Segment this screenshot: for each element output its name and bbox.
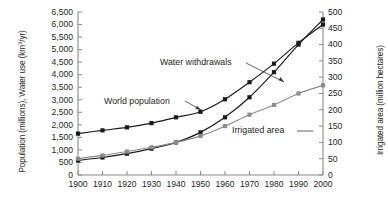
right-tick-label: 100 (328, 138, 342, 147)
left-tick-label: 5,500 (51, 33, 73, 42)
right-tick-label: 150 (328, 122, 342, 131)
data-point-marker (198, 134, 202, 138)
right-axis-ticks (319, 12, 323, 175)
data-point-marker (321, 83, 325, 87)
right-tick-label: 300 (328, 73, 342, 82)
data-point-marker (223, 124, 227, 128)
data-point-marker (100, 153, 104, 157)
series-layer (76, 17, 325, 162)
data-point-marker (247, 80, 251, 84)
right-tick-label: 350 (328, 57, 342, 66)
data-point-marker (296, 91, 300, 95)
left-axis-ticks (78, 12, 82, 175)
left-tick-label: 6,500 (51, 8, 73, 17)
data-point-marker (198, 110, 202, 114)
data-point-marker (296, 41, 300, 45)
left-tick-label: 4,500 (51, 58, 73, 67)
data-point-marker (321, 17, 325, 21)
data-point-marker (149, 145, 153, 149)
left-tick-label: 3,000 (51, 96, 73, 105)
annotation-irrigated-area: Irrigated area (232, 126, 284, 135)
data-point-marker (247, 95, 251, 99)
data-point-marker (272, 62, 276, 66)
data-point-marker (100, 128, 104, 132)
left-tick-label: 2,000 (51, 121, 73, 130)
water-withdrawals-leader (246, 63, 284, 82)
water-withdrawals-series (76, 17, 325, 162)
data-point-marker (125, 125, 129, 129)
right-tick-label: 200 (328, 106, 342, 115)
water-withdrawals-arrowhead (279, 77, 284, 82)
left-tick-label: 4,000 (51, 70, 73, 79)
left-tick-label: 6,000 (51, 20, 73, 29)
series-line (78, 25, 323, 134)
left-tick-label: 3,500 (51, 83, 73, 92)
left-tick-label: 2,500 (51, 108, 73, 117)
right-tick-label: 50 (328, 155, 338, 164)
right-tick-label: 250 (328, 89, 342, 98)
right-tick-label: 500 (328, 8, 342, 17)
right-tick-label: 400 (328, 40, 342, 49)
irrigated-area-series (76, 83, 325, 161)
data-point-marker (149, 121, 153, 125)
left-tick-label: 5,000 (51, 45, 73, 54)
data-point-marker (174, 115, 178, 119)
data-point-marker (76, 132, 80, 136)
series-line (78, 20, 323, 161)
right-tick-label: 450 (328, 24, 342, 33)
data-point-marker (223, 115, 227, 119)
x-tick-label: 2000 (309, 180, 337, 189)
annotation-world-population: World population (104, 97, 170, 106)
annotation-water-withdrawals: Water withdrawals (160, 58, 232, 67)
data-point-marker (125, 149, 129, 153)
data-point-marker (321, 22, 325, 26)
left-tick-label: 1,500 (51, 133, 73, 142)
data-point-marker (247, 113, 251, 117)
data-point-marker (223, 97, 227, 101)
data-point-marker (272, 70, 276, 74)
left-tick-label: 500 (59, 158, 73, 167)
data-point-marker (272, 103, 276, 107)
data-point-marker (174, 140, 178, 144)
data-point-marker (76, 157, 80, 161)
left-tick-label: 1,000 (51, 146, 73, 155)
x-axis-ticks (78, 171, 323, 175)
world-population-series (76, 22, 325, 135)
world-population-arrowhead (195, 106, 201, 110)
water-use-chart: Population (millions), Water use (km3/yr… (0, 0, 388, 206)
